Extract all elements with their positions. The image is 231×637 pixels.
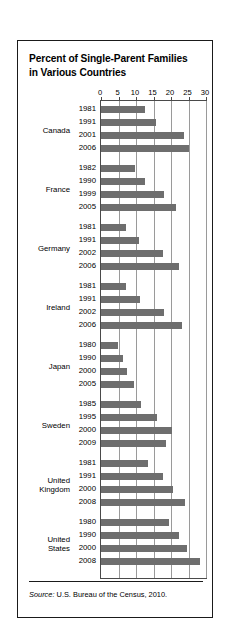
year-label: 1982 <box>79 164 96 171</box>
bar <box>101 473 163 480</box>
year-label-column: 1981199120012006198219901999200519811991… <box>18 100 96 577</box>
bar <box>101 309 164 316</box>
x-tick-label-5: 5 <box>115 88 119 97</box>
year-label: 2002 <box>79 249 96 256</box>
year-label: 1981 <box>79 223 96 230</box>
gridline-10 <box>136 101 137 578</box>
x-tick-label-0: 0 <box>98 88 102 97</box>
bar <box>101 414 157 421</box>
year-label: 2009 <box>79 439 96 446</box>
year-label: 1981 <box>79 105 96 112</box>
bar <box>101 460 148 467</box>
x-tick-label-10: 10 <box>131 88 139 97</box>
year-label: 2008 <box>79 557 96 564</box>
bar <box>101 558 200 565</box>
bar <box>101 322 182 329</box>
bar <box>101 250 163 257</box>
bar <box>101 342 118 349</box>
chart-title: Percent of Single-Parent Families in Var… <box>29 52 205 79</box>
bar <box>101 204 176 211</box>
bars-plot <box>100 100 207 579</box>
year-label: 2002 <box>79 308 96 315</box>
year-label: 1995 <box>79 413 96 420</box>
bar <box>101 119 156 126</box>
year-label: 1990 <box>79 354 96 361</box>
year-label: 1985 <box>79 400 96 407</box>
year-label: 1999 <box>79 190 96 197</box>
year-label: 1991 <box>79 295 96 302</box>
chart-plot-area: 051015202530 CanadaFranceGermanyIrelandJ… <box>18 88 214 593</box>
bar <box>101 499 185 506</box>
bar <box>101 545 187 552</box>
bar <box>101 106 145 113</box>
year-label: 2005 <box>79 203 96 210</box>
bar <box>101 296 140 303</box>
bar <box>101 427 172 434</box>
year-label: 1981 <box>79 459 96 466</box>
year-label: 1991 <box>79 118 96 125</box>
year-label: 1980 <box>79 341 96 348</box>
bar <box>101 532 179 539</box>
bar <box>101 224 126 231</box>
bar <box>101 145 189 152</box>
gridline-30 <box>206 101 207 578</box>
year-label: 2001 <box>79 131 96 138</box>
year-label: 1980 <box>79 518 96 525</box>
year-label: 2000 <box>79 485 96 492</box>
x-tick-label-15: 15 <box>148 88 156 97</box>
bar <box>101 401 141 408</box>
bar <box>101 191 164 198</box>
year-label: 2006 <box>79 144 96 151</box>
chart-figure: Percent of Single-Parent Families in Var… <box>17 40 213 618</box>
bar <box>101 178 145 185</box>
year-label: 2000 <box>79 426 96 433</box>
bar <box>101 165 135 172</box>
gridline-5 <box>119 101 120 578</box>
bar <box>101 440 166 447</box>
chart-title-line-1: Percent of Single-Parent Families <box>29 53 188 64</box>
x-tick-label-20: 20 <box>166 88 174 97</box>
year-label: 1990 <box>79 177 96 184</box>
bar <box>101 283 126 290</box>
bar <box>101 368 127 375</box>
source-note: Source: U.S. Bureau of the Census, 2010. <box>29 590 167 599</box>
gridline-15 <box>154 101 155 578</box>
x-axis-tick-labels: 051015202530 <box>18 88 214 100</box>
x-tick-label-30: 30 <box>201 88 209 97</box>
bar <box>101 355 123 362</box>
bar <box>101 237 139 244</box>
bar <box>101 486 173 493</box>
x-tick-label-25: 25 <box>183 88 191 97</box>
year-label: 1981 <box>79 282 96 289</box>
year-label: 2006 <box>79 262 96 269</box>
gridline-20 <box>171 101 172 578</box>
year-label: 2005 <box>79 380 96 387</box>
source-text: U.S. Bureau of the Census, 2010. <box>57 590 168 599</box>
bar <box>101 519 169 526</box>
year-label: 1991 <box>79 236 96 243</box>
year-label: 1990 <box>79 531 96 538</box>
source-prefix: Source: <box>29 590 54 599</box>
source-divider <box>29 581 203 582</box>
x-tickmark-0 <box>101 97 102 101</box>
chart-title-line-2: in Various Countries <box>29 67 126 78</box>
bar <box>101 132 184 139</box>
year-label: 2000 <box>79 544 96 551</box>
year-label: 1991 <box>79 472 96 479</box>
year-label: 2006 <box>79 321 96 328</box>
bar <box>101 263 179 270</box>
year-label: 2008 <box>79 498 96 505</box>
gridline-25 <box>189 101 190 578</box>
year-label: 2000 <box>79 367 96 374</box>
bar <box>101 381 134 388</box>
